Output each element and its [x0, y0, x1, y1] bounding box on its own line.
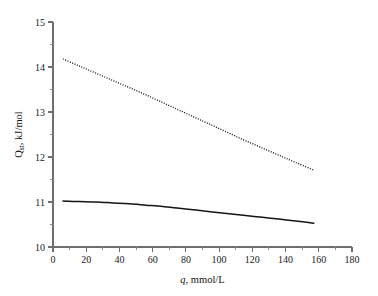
x-tick-label: 60 — [148, 254, 158, 265]
x-tick-label: 120 — [245, 254, 260, 265]
x-axis-ticks — [53, 247, 352, 252]
chart-figure: 101112131415 020406080100120140160180 q,… — [0, 0, 378, 296]
y-axis-tick-labels: 101112131415 — [35, 17, 45, 253]
y-tick-label: 15 — [35, 17, 45, 28]
y-tick-label: 10 — [35, 242, 45, 253]
x-tick-label: 140 — [278, 254, 293, 265]
x-tick-label: 180 — [345, 254, 360, 265]
y-axis-ticks — [48, 22, 53, 247]
y-tick-label: 11 — [35, 197, 45, 208]
chart-canvas: 101112131415 020406080100120140160180 q,… — [0, 0, 378, 296]
y-tick-label: 13 — [35, 107, 45, 118]
x-tick-label: 40 — [114, 254, 124, 265]
x-tick-label: 0 — [51, 254, 56, 265]
x-tick-label: 160 — [311, 254, 326, 265]
y-tick-label: 14 — [35, 62, 45, 73]
y-axis-title: Qst, kJ/mol — [13, 111, 26, 158]
y-tick-label: 12 — [35, 152, 45, 163]
x-tick-label: 80 — [181, 254, 191, 265]
series-lower-solid-curve — [63, 201, 314, 223]
data-series-group — [63, 59, 314, 223]
x-axis-title: q, mmol/L — [180, 274, 224, 285]
x-tick-label: 20 — [81, 254, 91, 265]
x-axis-tick-labels: 020406080100120140160180 — [51, 254, 360, 265]
series-upper-dotted-curve — [63, 59, 314, 170]
axes-group — [53, 22, 352, 247]
x-tick-label: 100 — [212, 254, 227, 265]
